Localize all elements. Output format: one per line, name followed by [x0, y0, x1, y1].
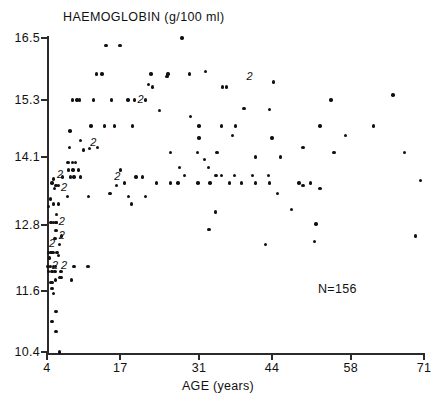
duplicate-count-label: 2 — [52, 259, 58, 271]
duplicate-count-label: 2 — [61, 181, 67, 193]
duplicate-count-label: 2 — [90, 136, 96, 148]
duplicate-count-label: 2 — [59, 215, 65, 227]
duplicate-count-label: 2 — [57, 168, 63, 180]
sample-size-annotation: N=156 — [318, 282, 357, 296]
scatter-plot-figure: HAEMOGLOBIN (g/100 ml) 10.411.612.814.11… — [0, 0, 436, 405]
duplicate-count-label: 2 — [61, 259, 67, 271]
duplicate-count-label: 2 — [114, 170, 120, 182]
duplicate-count-label: 2 — [49, 237, 55, 249]
duplicate-count-labels-layer: 22222222222 — [0, 0, 436, 405]
x-axis-title: AGE (years) — [0, 379, 436, 393]
duplicate-count-label: 2 — [59, 229, 65, 241]
duplicate-count-label: 2 — [137, 93, 143, 105]
duplicate-count-label: 2 — [247, 70, 253, 82]
